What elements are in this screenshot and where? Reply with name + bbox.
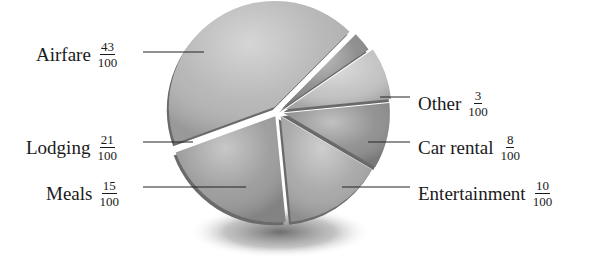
pie-slices xyxy=(167,1,391,225)
fraction-meals: 15100 xyxy=(99,179,119,208)
label-car-rental: Car rental 8100 xyxy=(418,133,520,162)
fraction-car-rental: 8100 xyxy=(500,133,520,162)
fraction-other: 3100 xyxy=(468,89,488,118)
label-meals: Meals 15100 xyxy=(46,179,119,208)
fraction-lodging: 21100 xyxy=(97,133,117,162)
fraction-airfare: 43100 xyxy=(98,40,118,69)
label-lodging: Lodging 21100 xyxy=(26,133,117,162)
label-airfare: Airfare 43100 xyxy=(36,40,117,69)
label-entertainment: Entertainment 10100 xyxy=(418,179,552,208)
label-other: Other 3100 xyxy=(418,89,488,118)
fraction-entertainment: 10100 xyxy=(533,179,553,208)
